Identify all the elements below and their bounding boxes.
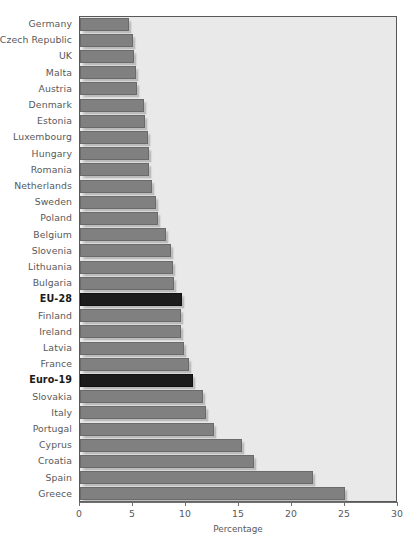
x-tick (291, 502, 292, 506)
table-row: Finland (0, 308, 417, 324)
bar-romania (80, 163, 149, 176)
table-row: Romania (0, 162, 417, 178)
bar-container (80, 406, 206, 419)
category-label: Slovenia (0, 246, 72, 255)
table-row: Belgium (0, 227, 417, 243)
bar-container (80, 293, 182, 306)
bar-euro-19 (80, 374, 193, 387)
bar-container (80, 487, 345, 500)
category-label: Sweden (0, 197, 72, 206)
bar-estonia (80, 115, 145, 128)
bar-luxembourg (80, 131, 148, 144)
category-label: Hungary (0, 149, 72, 158)
table-row: Malta (0, 65, 417, 81)
bar-rows: GermanyCzech RepublicUKMaltaAustriaDenma… (0, 16, 417, 502)
table-row: Slovakia (0, 389, 417, 405)
category-label: France (0, 359, 72, 368)
x-tick (344, 502, 345, 506)
category-label: EU-28 (0, 294, 72, 304)
table-row: Ireland (0, 324, 417, 340)
bar-container (80, 455, 254, 468)
x-tick-label: 15 (218, 508, 258, 519)
table-row: Latvia (0, 340, 417, 356)
category-label: Czech Republic (0, 35, 72, 44)
category-label: Luxembourg (0, 132, 72, 141)
table-row: Spain (0, 470, 417, 486)
bar-greece (80, 487, 345, 500)
bar-denmark (80, 99, 144, 112)
table-row: Estonia (0, 113, 417, 129)
table-row: Cyprus (0, 437, 417, 453)
bar-container (80, 66, 136, 79)
bar-spain (80, 471, 313, 484)
bar-czech-republic (80, 34, 133, 47)
x-tick-label: 25 (324, 508, 364, 519)
x-tick-label: 0 (59, 508, 99, 519)
bar-latvia (80, 342, 184, 355)
category-label: UK (0, 51, 72, 60)
category-label: Austria (0, 84, 72, 93)
bar-container (80, 390, 203, 403)
table-row: Luxembourg (0, 129, 417, 145)
category-label: Ireland (0, 327, 72, 336)
category-label: Poland (0, 213, 72, 222)
x-tick (238, 502, 239, 506)
bar-container (80, 342, 184, 355)
bar-container (80, 374, 193, 387)
bar-germany (80, 18, 129, 31)
category-label: Netherlands (0, 181, 72, 190)
table-row: Hungary (0, 146, 417, 162)
bar-hungary (80, 147, 149, 160)
bar-slovenia (80, 244, 171, 257)
bar-sweden (80, 196, 156, 209)
bar-portugal (80, 423, 214, 436)
bar-container (80, 82, 137, 95)
category-label: Italy (0, 408, 72, 417)
x-tick (132, 502, 133, 506)
table-row: Poland (0, 210, 417, 226)
category-label: Latvia (0, 343, 72, 352)
bar-malta (80, 66, 136, 79)
bar-italy (80, 406, 206, 419)
x-tick-label: 10 (165, 508, 205, 519)
table-row: Austria (0, 81, 417, 97)
x-tick-label: 30 (377, 508, 417, 519)
bar-container (80, 325, 181, 338)
category-label: Lithuania (0, 262, 72, 271)
category-label: Cyprus (0, 440, 72, 449)
bar-container (80, 212, 158, 225)
x-tick (397, 502, 398, 506)
bar-lithuania (80, 261, 173, 274)
table-row: Euro-19 (0, 372, 417, 388)
category-label: Croatia (0, 456, 72, 465)
bar-container (80, 131, 148, 144)
table-row: Germany (0, 16, 417, 32)
x-tick (185, 502, 186, 506)
bar-croatia (80, 455, 254, 468)
x-axis-title: Percentage (79, 524, 397, 534)
bar-poland (80, 212, 158, 225)
bar-container (80, 244, 171, 257)
table-row: Portugal (0, 421, 417, 437)
table-row: Bulgaria (0, 275, 417, 291)
table-row: Croatia (0, 453, 417, 469)
x-tick-label: 20 (271, 508, 311, 519)
bar-container (80, 163, 149, 176)
category-label: Estonia (0, 116, 72, 125)
bar-container (80, 471, 313, 484)
bar-france (80, 358, 189, 371)
bar-container (80, 147, 149, 160)
category-label: Finland (0, 311, 72, 320)
bar-chart: GermanyCzech RepublicUKMaltaAustriaDenma… (0, 0, 417, 552)
bar-container (80, 34, 133, 47)
table-row: Sweden (0, 194, 417, 210)
bar-container (80, 439, 242, 452)
bar-slovakia (80, 390, 203, 403)
bar-container (80, 18, 129, 31)
table-row: France (0, 356, 417, 372)
category-label: Euro-19 (0, 375, 72, 385)
table-row: Slovenia (0, 243, 417, 259)
category-label: Malta (0, 68, 72, 77)
table-row: EU-28 (0, 291, 417, 307)
bar-eu-28 (80, 293, 182, 306)
